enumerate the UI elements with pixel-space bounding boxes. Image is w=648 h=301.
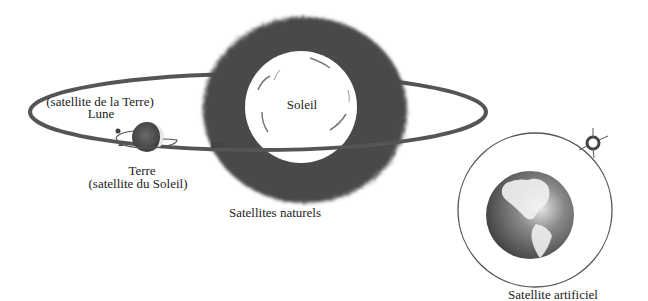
earth-description-label: (satellite du Soleil) <box>89 177 188 190</box>
moon-label: Lune <box>88 107 115 120</box>
moon-icon <box>116 129 121 134</box>
satellite-icon <box>579 128 608 158</box>
globe-icon <box>486 171 574 259</box>
artificial-satellite-system <box>458 128 612 287</box>
sun-label: Soleil <box>287 98 317 111</box>
diagram-canvas <box>0 0 648 301</box>
natural-satellites-caption: Satellites naturels <box>229 206 321 219</box>
artificial-satellite-caption: Satellite artificiel <box>508 288 598 301</box>
